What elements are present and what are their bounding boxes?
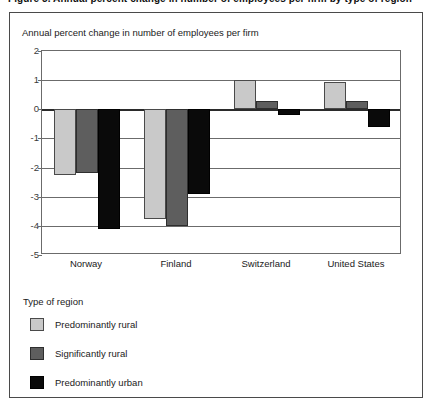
bar-united-states-rural bbox=[324, 82, 346, 110]
y-axis-tick-label: 0 bbox=[9, 103, 39, 114]
y-axis-tick bbox=[38, 168, 42, 169]
bar-finland-urban bbox=[188, 109, 210, 194]
bar-switzerland-rural bbox=[234, 80, 256, 109]
y-axis-tick-label: -3 bbox=[9, 190, 39, 201]
bar-finland-rural bbox=[144, 109, 166, 218]
bar-norway-urban bbox=[98, 109, 120, 228]
x-axis-label-finland: Finland bbox=[160, 258, 191, 269]
x-axis-label-norway: Norway bbox=[70, 258, 102, 269]
legend-swatch-rural bbox=[30, 318, 44, 331]
figure-title: Figure 5. Annual percent change in numbe… bbox=[8, 0, 428, 4]
plot-area bbox=[41, 50, 401, 254]
y-axis-tick-label: -1 bbox=[9, 132, 39, 143]
x-axis-label-united-states: United States bbox=[327, 258, 384, 269]
gridline bbox=[42, 226, 400, 227]
y-axis-tick bbox=[38, 226, 42, 227]
y-axis-tick bbox=[38, 51, 42, 52]
bar-united-states-signif bbox=[346, 101, 368, 110]
bar-switzerland-urban bbox=[278, 109, 300, 115]
y-axis: 210-1-2-3-4-5 bbox=[5, 50, 39, 254]
gridline bbox=[42, 80, 400, 81]
bar-finland-signif bbox=[166, 109, 188, 226]
y-axis-tick bbox=[38, 197, 42, 198]
y-axis-tick-label: 1 bbox=[9, 74, 39, 85]
bar-norway-signif bbox=[76, 109, 98, 173]
y-axis-tick bbox=[38, 138, 42, 139]
y-axis-tick-label: -2 bbox=[9, 161, 39, 172]
bar-norway-rural bbox=[54, 109, 76, 175]
y-axis-tick-label: 2 bbox=[9, 45, 39, 56]
y-axis-tick bbox=[38, 255, 42, 256]
y-axis-tick bbox=[38, 109, 42, 110]
y-axis-tick-label: -5 bbox=[9, 249, 39, 260]
x-axis-label-switzerland: Switzerland bbox=[241, 258, 290, 269]
legend-label-signif: Significantly rural bbox=[55, 348, 127, 359]
y-axis-tick bbox=[38, 80, 42, 81]
gridline bbox=[42, 197, 400, 198]
legend-label-rural: Predominantly rural bbox=[55, 319, 137, 330]
y-axis-tick-label: -4 bbox=[9, 219, 39, 230]
bar-united-states-urban bbox=[368, 109, 390, 126]
chart-subtitle: Annual percent change in number of emplo… bbox=[22, 27, 259, 38]
legend-swatch-urban bbox=[30, 376, 44, 389]
legend-label-urban: Predominantly urban bbox=[55, 377, 143, 388]
bar-switzerland-signif bbox=[256, 101, 278, 110]
legend-title: Type of region bbox=[23, 296, 83, 307]
legend-swatch-signif bbox=[30, 347, 44, 360]
